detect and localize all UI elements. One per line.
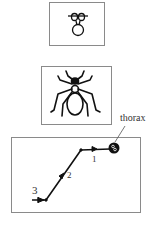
thorax-marker-icon	[109, 143, 120, 154]
small-spider-icon	[68, 14, 88, 36]
path-step-label-2: 2	[67, 171, 72, 180]
path-step-label-1: 1	[92, 155, 97, 164]
large-spider-icon	[51, 71, 100, 116]
callout-leader-line	[115, 126, 125, 142]
path-step-label-3: 3	[32, 185, 38, 196]
thorax-callout-label: thorax	[120, 113, 146, 123]
